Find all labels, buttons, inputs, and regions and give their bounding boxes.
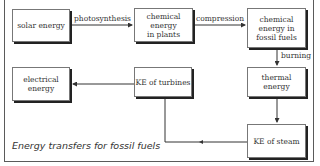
node-label: electrical energy: [23, 75, 59, 93]
node-chemical-energy-fossil-fuels: chemical energy in fossil fuels: [247, 8, 306, 48]
node-label: thermal energy: [248, 73, 305, 91]
node-label: KE of steam: [253, 137, 299, 146]
arrow-steam-to-turbines: [165, 98, 247, 142]
edge-label-burning: burning: [281, 51, 311, 60]
node-electrical-energy: electrical energy: [12, 67, 70, 101]
node-label: solar energy: [17, 21, 65, 30]
node-thermal-energy: thermal energy: [247, 67, 306, 97]
edge-label-compression: compression: [196, 14, 244, 23]
node-label: chemical energy in fossil fuels: [256, 15, 296, 42]
diagram-caption: Energy transfers for fossil fuels: [12, 140, 160, 151]
node-ke-of-steam: KE of steam: [247, 124, 306, 158]
node-label: KE of turbines: [136, 78, 191, 87]
node-label: chemical energy in plants: [146, 12, 180, 39]
node-chemical-energy-plants: chemical energy in plants: [134, 8, 193, 42]
node-solar-energy: solar energy: [12, 9, 70, 42]
node-ke-of-turbines: KE of turbines: [134, 67, 192, 97]
edge-label-photosynthesis: photosynthesis: [74, 14, 131, 23]
